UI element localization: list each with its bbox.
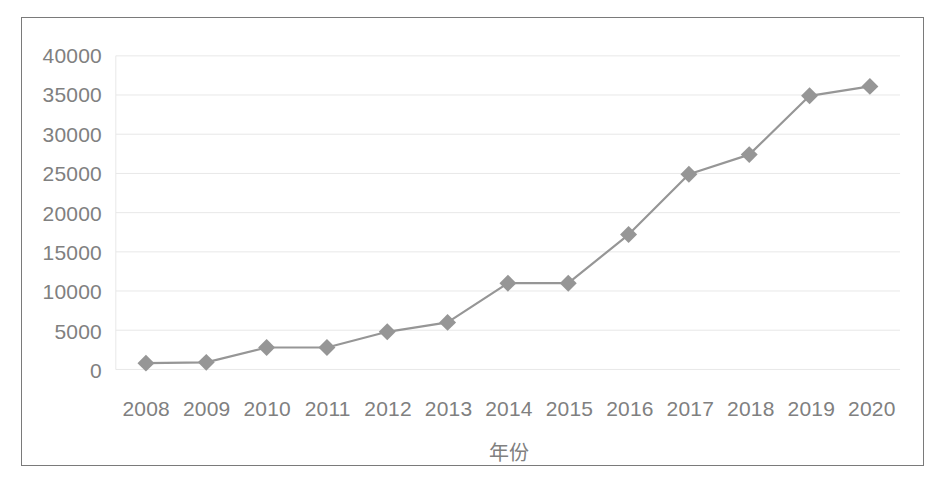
y-axis-tick-label: 0 xyxy=(90,359,102,383)
x-axis-tick-label: 2010 xyxy=(243,397,291,421)
series-line xyxy=(146,86,870,363)
chart-figure: 0500010000150002000025000300003500040000… xyxy=(21,17,924,466)
data-point-marker xyxy=(499,275,516,292)
x-axis-title: 年份 xyxy=(489,437,529,466)
x-axis-tick-label: 2008 xyxy=(122,397,170,421)
x-axis-tick-label: 2009 xyxy=(183,397,231,421)
gridlines-group xyxy=(116,56,900,370)
x-axis-tick-label: 2012 xyxy=(364,397,412,421)
y-axis-tick-label: 35000 xyxy=(43,83,102,107)
y-axis-tick-label: 25000 xyxy=(43,162,102,186)
y-axis-tick-label: 5000 xyxy=(54,320,102,344)
x-axis-tick-label: 2013 xyxy=(425,397,473,421)
y-axis-tick-label: 15000 xyxy=(43,241,102,265)
data-point-marker xyxy=(198,354,215,371)
y-axis-tick-label: 30000 xyxy=(43,123,102,147)
x-axis-tick-label: 2014 xyxy=(485,397,533,421)
series-markers-group xyxy=(137,78,878,372)
y-axis-tick-label: 10000 xyxy=(43,280,102,304)
x-axis-tick-label: 2016 xyxy=(606,397,654,421)
x-axis-tick-label: 2020 xyxy=(848,397,896,421)
y-axis-tick-label: 20000 xyxy=(43,202,102,226)
data-point-marker xyxy=(379,323,396,340)
data-point-marker xyxy=(439,314,456,331)
y-axis-tick-label: 40000 xyxy=(43,44,102,68)
x-axis-tick-label: 2017 xyxy=(667,397,715,421)
x-axis-tick-label: 2015 xyxy=(546,397,594,421)
x-axis-tick-label: 2018 xyxy=(727,397,775,421)
data-point-marker xyxy=(318,339,335,356)
x-axis-tick-label: 2019 xyxy=(788,397,836,421)
data-point-marker xyxy=(258,339,275,356)
x-axis-tick-label: 2011 xyxy=(305,397,351,421)
data-point-marker xyxy=(861,78,878,95)
